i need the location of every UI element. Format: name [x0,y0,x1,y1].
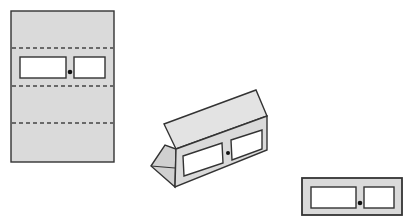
prism-knob-dot [226,151,230,155]
knob-dot [68,70,73,75]
front-knob-dot [358,201,363,206]
flat-sheet-panel [11,11,114,162]
front-left-window [311,187,356,208]
folded-prism-panel [151,90,267,187]
left-window [20,57,66,78]
front-right-window [364,187,394,208]
folding-diagram [0,0,415,222]
right-window [74,57,105,78]
front-view-panel [302,178,402,215]
